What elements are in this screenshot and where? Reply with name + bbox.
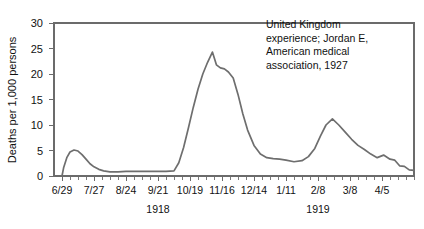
period-labels: 19181919 xyxy=(146,203,330,215)
y-tick-label: 20 xyxy=(31,68,43,80)
line-chart: Deaths per 1,000 persons 051015202530 6/… xyxy=(0,0,424,229)
plot-frame xyxy=(54,23,414,176)
y-tick-labels: 051015202530 xyxy=(31,17,43,182)
x-tick-label: 6/29 xyxy=(52,184,73,196)
y-tick-label: 15 xyxy=(31,94,43,106)
y-tick-label: 30 xyxy=(31,17,43,29)
y-tick-marks xyxy=(49,23,54,176)
x-tick-label: 7/27 xyxy=(84,184,105,196)
x-tick-label: 10/19 xyxy=(177,184,203,196)
y-tick-label: 10 xyxy=(31,119,43,131)
data-series-line xyxy=(62,52,414,176)
y-axis-title: Deaths per 1,000 persons xyxy=(6,36,18,163)
y-tick-label: 5 xyxy=(37,145,43,157)
x-tick-label: 1/11 xyxy=(276,184,296,196)
axis-frame xyxy=(54,23,414,176)
x-tick-labels: 6/297/278/249/2110/1911/1612/141/112/83/… xyxy=(52,184,390,196)
x-tick-label: 4/5 xyxy=(375,184,390,196)
period-label: 1919 xyxy=(306,203,330,215)
annotation-line: association, 1927 xyxy=(266,59,348,71)
y-tick-label: 0 xyxy=(37,170,43,182)
annotation-line: experience; Jordan E, xyxy=(266,32,368,44)
source-note: United Kingdomexperience; Jordan E,Ameri… xyxy=(266,18,368,71)
series-group xyxy=(62,52,414,176)
chart-figure: Deaths per 1,000 persons 051015202530 6/… xyxy=(0,0,424,229)
annotation-line: American medical xyxy=(266,45,349,57)
annotation-group: United Kingdomexperience; Jordan E,Ameri… xyxy=(266,18,368,71)
annotation-line: United Kingdom xyxy=(266,18,341,30)
x-tick-label: 2/8 xyxy=(311,184,326,196)
x-tick-label: 3/8 xyxy=(343,184,358,196)
x-tick-label: 12/14 xyxy=(241,184,267,196)
y-tick-label: 25 xyxy=(31,43,43,55)
x-tick-label: 9/21 xyxy=(148,184,169,196)
x-tick-label: 11/16 xyxy=(209,184,235,196)
period-label: 1918 xyxy=(146,203,170,215)
x-tick-label: 8/24 xyxy=(116,184,137,196)
y-axis-title-group: Deaths per 1,000 persons xyxy=(6,36,18,163)
